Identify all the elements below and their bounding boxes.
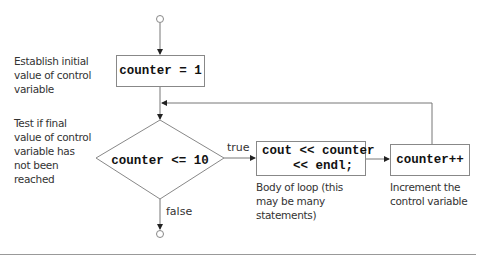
init-note-line: Establish initial bbox=[14, 54, 91, 68]
body-note-line: Body of loop (this bbox=[256, 180, 343, 194]
condition-text-wrap: counter <= 10 bbox=[96, 150, 224, 168]
true-label: true bbox=[227, 141, 250, 154]
condition-note-line: value of control bbox=[14, 130, 91, 144]
flowchart-canvas: counter = 1 counter <= 10 cout << counte… bbox=[0, 0, 484, 259]
init-note: Establish initial value of control varia… bbox=[14, 54, 91, 96]
condition-note-line: not been bbox=[14, 158, 91, 172]
increment-box: counter++ bbox=[390, 144, 470, 176]
start-node bbox=[157, 16, 164, 23]
increment-code: counter++ bbox=[396, 153, 464, 167]
condition-note-line: Test if final bbox=[14, 116, 91, 130]
body-note: Body of loop (this may be many statement… bbox=[256, 180, 343, 222]
false-label: false bbox=[166, 205, 192, 218]
increment-note-line: Increment the bbox=[390, 180, 467, 194]
edge-increment-loopback bbox=[162, 103, 432, 144]
init-box: counter = 1 bbox=[116, 55, 205, 87]
body-code-line2: << endl; bbox=[262, 159, 353, 174]
bottom-rule bbox=[0, 254, 476, 255]
body-code-line1: cout << counter bbox=[262, 144, 375, 159]
body-box: cout << counter << endl; bbox=[256, 141, 366, 176]
init-code: counter = 1 bbox=[119, 64, 202, 78]
increment-note-line: control variable bbox=[390, 194, 467, 208]
increment-note: Increment the control variable bbox=[390, 180, 467, 208]
condition-code: counter <= 10 bbox=[111, 154, 209, 168]
condition-note: Test if final value of control variable … bbox=[14, 116, 91, 186]
body-note-line: may be many bbox=[256, 194, 343, 208]
init-note-line: variable bbox=[14, 82, 91, 96]
init-note-line: value of control bbox=[14, 68, 91, 82]
end-node bbox=[157, 231, 164, 238]
condition-note-line: variable has bbox=[14, 144, 91, 158]
body-note-line: statements) bbox=[256, 208, 343, 222]
condition-note-line: reached bbox=[14, 172, 91, 186]
